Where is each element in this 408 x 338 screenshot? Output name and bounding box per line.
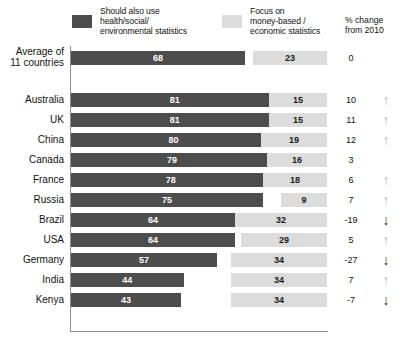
percent-change-value: -27 (336, 250, 366, 270)
arrow-up-icon: ↑ (372, 190, 400, 210)
bar-dark: 75 (71, 193, 263, 207)
percent-change-value: 12 (336, 130, 366, 150)
bar-dark: 44 (71, 273, 184, 287)
bar-row: Average of11 countries68230 (0, 48, 408, 68)
row-label: Germany (23, 250, 64, 270)
legend-light-line2: money-based / (250, 16, 306, 26)
bar-light-fill: 23 (253, 51, 327, 65)
bar-light: 15 (269, 93, 327, 107)
legend-swatch-dark-icon (72, 15, 92, 28)
bar-light-value: 9 (281, 193, 327, 207)
row-label: Brazil (39, 210, 64, 230)
percent-change-line2: from 2010 (345, 25, 384, 35)
bar-light-fill: 34 (231, 273, 327, 287)
bar-light-fill: 15 (269, 93, 327, 107)
bar-light: 34 (231, 273, 327, 287)
bar-dark: 57 (71, 253, 217, 267)
arrow-up-icon: ↑ (372, 230, 400, 250)
percent-change-value: 0 (336, 48, 366, 68)
bar-dark-fill: 68 (71, 51, 245, 65)
legend-dark-line2: health/social/ (100, 16, 149, 26)
bar-light: 23 (253, 51, 327, 65)
chart-legend: Should also use health/social/ environme… (0, 0, 408, 44)
legend-dark-line3: environmental statistics (100, 26, 187, 36)
bar-dark-value: 80 (71, 133, 276, 147)
bar-light-value: 18 (263, 173, 327, 187)
bar-dark-value: 64 (71, 213, 235, 227)
bar-light: 34 (231, 293, 327, 307)
bar-dark-fill: 64 (71, 233, 235, 247)
row-label-line2: 11 countries (10, 57, 64, 68)
bar-dark: 68 (71, 51, 245, 65)
bar-dark: 78 (71, 173, 271, 187)
percent-change-value: -19 (336, 210, 366, 230)
percent-change-value: 7 (336, 270, 366, 290)
row-label: France (33, 170, 64, 190)
bar-dark-fill: 44 (71, 273, 184, 287)
plot-area: Average of11 countries68230Australia8115… (0, 44, 408, 338)
bar-dark-value: 81 (71, 113, 278, 127)
legend-item-money-based-economic: Focus on money-based / economic statisti… (222, 6, 320, 37)
bar-dark-value: 68 (71, 51, 245, 65)
bar-dark-fill: 75 (71, 193, 263, 207)
row-label: USA (43, 230, 64, 250)
row-label: Average of11 countries (10, 46, 64, 68)
bar-dark-fill: 64 (71, 213, 235, 227)
bar-chart: Should also use health/social/ environme… (0, 0, 408, 338)
percent-change-value: 11 (336, 110, 366, 130)
percent-change-value: -7 (336, 290, 366, 310)
bar-light-value: 32 (235, 213, 327, 227)
bar-dark-value: 43 (71, 293, 181, 307)
arrow-down-icon: ↓ (372, 210, 400, 230)
row-label: Kenya (36, 290, 64, 310)
bar-dark-fill: 79 (71, 153, 273, 167)
bar-row: France78186↑ (0, 170, 408, 190)
bar-dark: 79 (71, 153, 273, 167)
legend-item-health-social-environmental: Should also use health/social/ environme… (72, 6, 187, 37)
bar-light-value: 34 (231, 293, 327, 307)
legend-light-line3: economic statistics (250, 26, 320, 36)
bar-row: UK811511↑ (0, 110, 408, 130)
bar-dark-value: 81 (71, 93, 278, 107)
bar-light-value: 34 (231, 253, 327, 267)
bar-row: Germany5734-27↓ (0, 250, 408, 270)
legend-label-dark: Should also use health/social/ environme… (100, 6, 187, 37)
row-label: China (38, 130, 64, 150)
bar-row: Australia811510↑ (0, 90, 408, 110)
row-label: Canada (29, 150, 64, 170)
percent-change-value: 10 (336, 90, 366, 110)
bar-dark: 81 (71, 113, 278, 127)
bar-light-fill: 32 (235, 213, 327, 227)
bar-dark: 43 (71, 293, 181, 307)
bar-light: 19 (261, 133, 327, 147)
bar-light: 32 (235, 213, 327, 227)
bar-row: India44347↑ (0, 270, 408, 290)
bar-dark-value: 64 (71, 233, 235, 247)
bar-light-fill: 18 (263, 173, 327, 187)
bar-dark-fill: 81 (71, 113, 278, 127)
bar-dark: 64 (71, 233, 235, 247)
bar-dark: 80 (71, 133, 276, 147)
bar-row: Kenya4334-7↓ (0, 290, 408, 310)
bar-light-value: 16 (267, 153, 327, 167)
legend-dark-line1: Should also use (100, 6, 160, 16)
bar-dark-fill: 80 (71, 133, 276, 147)
legend-label-light: Focus on money-based / economic statisti… (250, 6, 320, 37)
percent-change-line1: % change (345, 15, 383, 25)
bar-light-fill: 34 (231, 253, 327, 267)
axis-horizontal (70, 331, 328, 332)
bar-dark-fill: 78 (71, 173, 271, 187)
percent-change-value: 6 (336, 170, 366, 190)
bar-light-value: 29 (241, 233, 327, 247)
bar-dark: 64 (71, 213, 235, 227)
arrow-up-icon: ↑ (372, 110, 400, 130)
bar-light-fill: 19 (261, 133, 327, 147)
bar-light: 29 (241, 233, 327, 247)
bar-row: USA64295↑ (0, 230, 408, 250)
row-label: Australia (25, 90, 64, 110)
bar-light: 15 (269, 113, 327, 127)
bar-light-value: 19 (261, 133, 327, 147)
bar-light-fill: 16 (267, 153, 327, 167)
arrow-up-icon: ↑ (372, 170, 400, 190)
bar-row: Russia7597↑ (0, 190, 408, 210)
